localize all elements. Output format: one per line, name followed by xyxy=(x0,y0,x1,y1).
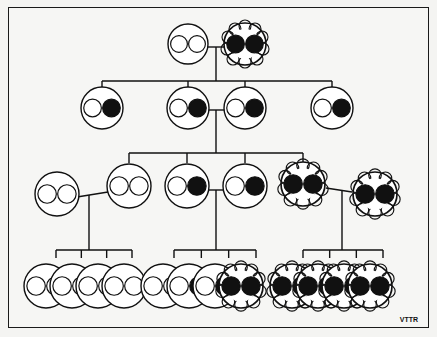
dominant-allele-dot xyxy=(246,177,264,195)
individuals-layer xyxy=(24,20,400,311)
dominant-allele-dot xyxy=(304,175,322,193)
individual-smooth xyxy=(35,172,79,216)
dominant-allele-dot xyxy=(333,99,351,117)
dominant-allele-dot xyxy=(222,277,240,295)
recessive-allele-dot xyxy=(189,36,206,53)
dominant-allele-dot xyxy=(356,185,374,203)
recessive-allele-dot xyxy=(314,99,332,117)
recessive-allele-dot xyxy=(196,277,214,295)
dominant-allele-dot xyxy=(103,99,121,117)
recessive-allele-dot xyxy=(53,277,71,295)
individual-rough xyxy=(350,169,400,219)
individual-smooth xyxy=(102,264,146,308)
recessive-allele-dot xyxy=(170,277,188,295)
dominant-allele-dot xyxy=(299,277,317,295)
pedigree-lines xyxy=(56,47,383,258)
recessive-allele-dot xyxy=(170,99,188,117)
dominant-allele-dot xyxy=(188,177,206,195)
individual-smooth xyxy=(165,164,209,208)
recessive-allele-dot xyxy=(58,185,76,203)
dominant-allele-dot xyxy=(246,35,264,53)
dominant-allele-dot xyxy=(351,277,369,295)
recessive-allele-dot xyxy=(144,277,162,295)
individual-smooth xyxy=(168,24,208,64)
individual-smooth xyxy=(224,87,266,129)
individual-rough xyxy=(221,20,269,68)
recessive-allele-dot xyxy=(79,277,97,295)
dominant-allele-dot xyxy=(246,99,264,117)
recessive-allele-dot xyxy=(110,177,128,195)
recessive-allele-dot xyxy=(226,177,244,195)
dominant-allele-dot xyxy=(371,277,389,295)
individual-smooth xyxy=(81,87,123,129)
dominant-allele-dot xyxy=(227,35,245,53)
dominant-allele-dot xyxy=(242,277,260,295)
dominant-allele-dot xyxy=(376,185,394,203)
individual-rough xyxy=(278,159,328,209)
dominant-allele-dot xyxy=(325,277,343,295)
dominant-allele-dot xyxy=(284,175,302,193)
recessive-allele-dot xyxy=(27,277,45,295)
recessive-allele-dot xyxy=(168,177,186,195)
recessive-allele-dot xyxy=(171,36,188,53)
individual-smooth xyxy=(107,164,151,208)
dominant-allele-dot xyxy=(189,99,207,117)
individual-smooth xyxy=(311,87,353,129)
recessive-allele-dot xyxy=(105,277,123,295)
recessive-allele-dot xyxy=(227,99,245,117)
inheritance-diagram: VTTR xyxy=(0,0,437,337)
artist-signature: VTTR xyxy=(400,316,418,323)
dominant-allele-dot xyxy=(273,277,291,295)
recessive-allele-dot xyxy=(130,177,148,195)
individual-smooth xyxy=(223,164,267,208)
recessive-allele-dot xyxy=(38,185,56,203)
individual-smooth xyxy=(167,87,209,129)
recessive-allele-dot xyxy=(84,99,102,117)
